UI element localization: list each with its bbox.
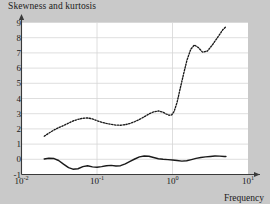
y-tick-label: 7 [7, 48, 21, 57]
x-axis-tick-labels: 10-210-1100101 [0, 175, 270, 189]
y-axis-tick-labels: -10123456789 [0, 0, 21, 204]
y-tick-label: 3 [7, 109, 21, 118]
y-tick-label: 2 [7, 124, 21, 133]
y-tick-label: 4 [7, 94, 21, 103]
y-tick-label: 6 [7, 64, 21, 73]
y-tick-label: 5 [7, 79, 21, 88]
x-tick-label: 101 [242, 177, 254, 186]
y-tick-label: 0 [7, 155, 21, 164]
x-tick-label: 10-1 [90, 177, 104, 186]
chart-title: Skewness and kurtosis [8, 1, 96, 11]
x-axis-label: Frequency [224, 193, 264, 203]
y-tick-label: 9 [7, 18, 21, 27]
x-tick-label: 10-2 [14, 177, 28, 186]
x-tick-label: 100 [166, 177, 178, 186]
y-tick-label: 8 [7, 33, 21, 42]
plot-canvas [0, 0, 270, 204]
chart-figure: Skewness and kurtosis -10123456789 10-21… [0, 0, 270, 204]
y-tick-label: 1 [7, 140, 21, 149]
